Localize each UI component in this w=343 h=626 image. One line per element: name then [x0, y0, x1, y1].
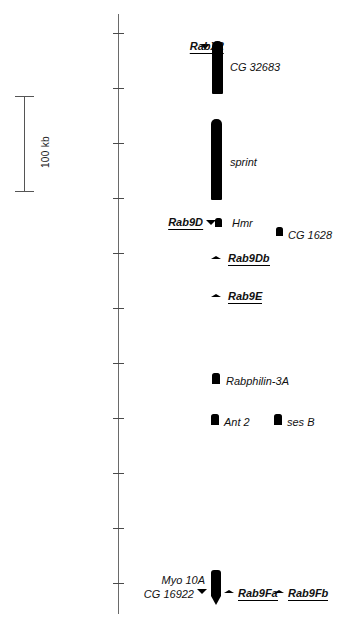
- axis-tick: [113, 33, 124, 34]
- axis-tick: [113, 198, 124, 199]
- triangle-up-icon: [274, 590, 284, 593]
- gene-label-cg1628: CG 1628: [288, 229, 332, 241]
- gene-label-rab9fa: Rab9Fa: [238, 587, 278, 601]
- gene-bar-pointed-icon: [211, 570, 221, 596]
- triangle-up-icon: [211, 294, 221, 297]
- triangle-up-icon: [224, 590, 234, 593]
- gene-label-rab9fb: Rab9Fb: [288, 587, 328, 601]
- scale-bar-vertical-line: [24, 96, 25, 192]
- gene-bar-icon: [211, 119, 222, 200]
- gene-box-icon: [215, 218, 222, 227]
- gene-label-sprint: sprint: [230, 156, 257, 168]
- gene-label-rab9e: Rab9E: [228, 290, 262, 304]
- gene-label-myo10a: Myo 10A: [162, 574, 205, 586]
- axis-tick: [113, 528, 124, 529]
- axis-tick: [113, 583, 124, 584]
- gene-label-sesb: ses B: [287, 416, 315, 428]
- gene-label-rab9d: Rab9D: [168, 216, 203, 230]
- axis-tick: [113, 143, 124, 144]
- axis-tick: [113, 363, 124, 364]
- axis-tick: [113, 88, 124, 89]
- gene-map-figure: 100 kb RabX2CG 32683sprintRab9DHmrCG 162…: [0, 0, 343, 626]
- gene-label-rab9db: Rab9Db: [228, 252, 270, 266]
- scale-bar-top-cap: [15, 96, 34, 97]
- axis-tick: [113, 418, 124, 419]
- gene-bar-icon: [212, 41, 223, 94]
- gene-label-hmr: Hmr: [232, 217, 253, 229]
- chromosome-axis-line: [118, 14, 119, 614]
- scale-bar-label: 100 kb: [40, 136, 51, 168]
- axis-tick: [113, 473, 124, 474]
- triangle-down-icon: [197, 589, 207, 594]
- gene-label-ant2: Ant 2: [224, 416, 250, 428]
- gene-box-icon: [276, 227, 283, 236]
- gene-box-icon: [211, 414, 219, 425]
- gene-box-icon: [212, 373, 220, 384]
- triangle-up-icon: [211, 256, 221, 259]
- axis-tick: [113, 308, 124, 309]
- scale-bar-bottom-cap: [15, 191, 34, 192]
- gene-label-cg16922: CG 16922: [144, 588, 194, 600]
- gene-box-icon: [274, 414, 282, 425]
- gene-label-rabphilin3a: Rabphilin-3A: [226, 375, 289, 387]
- axis-tick: [113, 253, 124, 254]
- gene-label-cg32683: CG 32683: [230, 61, 280, 73]
